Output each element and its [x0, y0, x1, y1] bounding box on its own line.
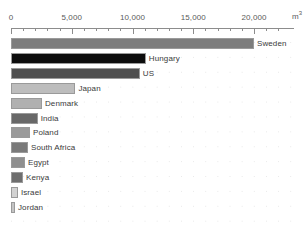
bar-category-label: India — [41, 113, 59, 124]
bar-row[interactable]: Egypt — [11, 157, 49, 168]
bar-category-label: Sweden — [257, 38, 287, 49]
axis-unit-label: m3 — [292, 12, 302, 21]
axis-tick-minor — [145, 28, 146, 31]
axis-tick-minor — [266, 28, 267, 31]
axis-tick-major — [193, 28, 194, 34]
bar-category-label: Hungary — [149, 53, 180, 64]
bar-category-label: Japan — [78, 83, 100, 94]
bar[interactable] — [11, 113, 38, 124]
bar-series: SwedenHungaryUSJapanDenmarkIndiaPolandSo… — [0, 36, 306, 232]
x-axis: 05,00010,00015,00020,000 m3 — [0, 0, 306, 36]
bar[interactable] — [11, 68, 140, 79]
axis-tick-minor — [278, 28, 279, 31]
bar-row[interactable]: US — [11, 68, 154, 79]
axis-tick-major — [254, 28, 255, 34]
bar-row[interactable]: South Africa — [11, 142, 75, 153]
bar-category-label: Poland — [33, 127, 59, 138]
bar-row[interactable]: Denmark — [11, 98, 78, 109]
bar-row[interactable]: Poland — [11, 127, 58, 138]
axis-tick-minor — [169, 28, 170, 31]
axis-tick-minor — [218, 28, 219, 31]
axis-tick-major — [72, 28, 73, 34]
bar[interactable] — [11, 98, 42, 109]
bar-row[interactable]: Jordan — [11, 202, 43, 213]
bar-row[interactable]: Japan — [11, 83, 101, 94]
bar[interactable] — [11, 172, 23, 183]
bar-row[interactable]: India — [11, 113, 59, 124]
bar-category-label: South Africa — [31, 142, 75, 153]
bar-row[interactable]: Sweden — [11, 38, 287, 49]
axis-tick-minor — [35, 28, 36, 31]
bar-category-label: Denmark — [45, 98, 78, 109]
axis-tick-minor — [242, 28, 243, 31]
axis-tick-minor — [181, 28, 182, 31]
bar[interactable] — [11, 83, 75, 94]
axis-tick-minor — [108, 28, 109, 31]
axis-tick-label: 0 — [9, 13, 14, 22]
bar-row[interactable]: Israel — [11, 187, 41, 198]
axis-tick-minor — [205, 28, 206, 31]
axis-tick-minor — [120, 28, 121, 31]
axis-tick-minor — [157, 28, 158, 31]
bar[interactable] — [11, 142, 28, 153]
bar[interactable] — [11, 157, 25, 168]
axis-tick-minor — [230, 28, 231, 31]
bar-category-label: US — [143, 68, 154, 79]
axis-tick-major — [133, 28, 134, 34]
axis-tick-major — [11, 28, 12, 34]
axis-tick-minor — [47, 28, 48, 31]
horizontal-bar-chart: 05,00010,00015,00020,000 m3 SwedenHungar… — [0, 0, 306, 232]
axis-tick-label: 15,000 — [181, 13, 206, 22]
bar-category-label: Kenya — [26, 172, 49, 183]
bar-category-label: Egypt — [28, 157, 49, 168]
bar-row[interactable]: Hungary — [11, 53, 180, 64]
axis-tick-label: 20,000 — [241, 13, 266, 22]
bar[interactable] — [11, 202, 15, 213]
axis-tick-label: 5,000 — [61, 13, 82, 22]
axis-tick-minor — [96, 28, 97, 31]
axis-tick-label: 10,000 — [120, 13, 145, 22]
bar-row[interactable]: Kenya — [11, 172, 49, 183]
bar-category-label: Israel — [21, 187, 41, 198]
axis-tick-minor — [84, 28, 85, 31]
axis-tick-minor — [23, 28, 24, 31]
axis-tick-minor — [60, 28, 61, 31]
bar[interactable] — [11, 38, 254, 49]
x-axis-line — [11, 28, 294, 29]
bar[interactable] — [11, 127, 30, 138]
bar[interactable] — [11, 187, 18, 198]
bar-category-label: Jordan — [18, 202, 43, 213]
bar[interactable] — [11, 53, 146, 64]
